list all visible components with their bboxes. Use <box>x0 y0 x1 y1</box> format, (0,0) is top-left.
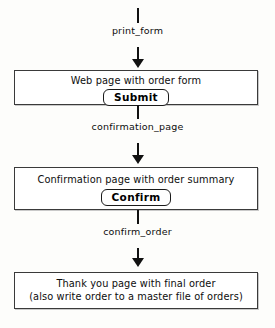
connector-stem <box>137 8 139 23</box>
submit-button[interactable]: Submit <box>103 89 169 106</box>
arrow-head-icon <box>132 59 144 68</box>
confirm-button[interactable]: Confirm <box>101 189 172 206</box>
edge-label-confirmation-page: confirmation_page <box>0 121 275 132</box>
flowchart-canvas: print_form Web page with order form Subm… <box>0 0 275 328</box>
connector-stem <box>137 210 139 224</box>
process-box-label: Web page with order form <box>15 74 257 87</box>
arrow-head-icon <box>132 258 144 267</box>
edge-label-confirm-order: confirm_order <box>0 226 275 237</box>
arrow-head-icon <box>132 155 144 164</box>
button-row: Confirm <box>15 189 257 206</box>
process-box-confirmation-page[interactable]: Confirmation page with order summary Con… <box>14 167 258 210</box>
edge-label-print-form: print_form <box>0 25 275 36</box>
process-box-label-line1: Thank you page with final order <box>15 277 257 290</box>
connector-stem <box>137 105 139 119</box>
process-box-web-page[interactable]: Web page with order form Submit <box>14 70 258 105</box>
button-row: Submit <box>15 89 257 106</box>
process-box-thank-you-page[interactable]: Thank you page with final order (also wr… <box>14 272 258 309</box>
process-box-label: Confirmation page with order summary <box>15 173 257 186</box>
process-box-label-line2: (also write order to a master file of or… <box>15 290 257 303</box>
